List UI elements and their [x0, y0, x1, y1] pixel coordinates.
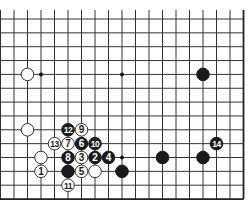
- stone-disc: [21, 124, 34, 137]
- black-stone-move-2: 2: [89, 151, 102, 164]
- black-stone: [197, 151, 210, 164]
- stone-disc: [21, 68, 34, 81]
- black-stone-move-6: 6: [75, 137, 88, 150]
- black-stone: [62, 165, 75, 178]
- white-stone: [35, 151, 48, 164]
- move-number: 6: [79, 138, 85, 149]
- star-point: [120, 72, 124, 76]
- move-number: 5: [79, 166, 85, 177]
- black-stone-move-12: 12: [62, 124, 75, 137]
- stone-disc: [116, 165, 129, 178]
- black-stone: [156, 151, 169, 164]
- black-stone-move-4: 4: [102, 151, 115, 164]
- white-stone: [21, 68, 34, 81]
- move-number: 12: [64, 125, 73, 135]
- move-number: 1: [38, 166, 44, 177]
- white-stone: [89, 165, 102, 178]
- white-stone: [21, 124, 34, 137]
- white-stone-move-3: 3: [75, 151, 88, 164]
- white-stone-move-5: 5: [75, 165, 88, 178]
- stone-disc: [35, 151, 48, 164]
- stone-disc: [197, 151, 210, 164]
- stone-disc: [62, 165, 75, 178]
- star-point: [120, 156, 124, 160]
- black-stone-move-14: 14: [210, 137, 223, 150]
- white-stone-move-1: 1: [35, 165, 48, 178]
- move-number: 3: [79, 152, 85, 163]
- move-number: 4: [106, 152, 112, 163]
- stone-disc: [156, 151, 169, 164]
- move-number: 14: [212, 139, 221, 149]
- move-number: 13: [50, 139, 59, 149]
- black-stone-move-8: 8: [62, 151, 75, 164]
- move-number: 10: [91, 139, 100, 149]
- move-number: 7: [65, 138, 71, 149]
- move-number: 2: [92, 152, 98, 163]
- star-point: [39, 72, 43, 76]
- white-stone-move-13: 13: [48, 137, 61, 150]
- white-stone-move-11: 11: [62, 179, 75, 192]
- white-stone-move-9: 9: [75, 124, 88, 137]
- black-stone: [116, 165, 129, 178]
- move-number: 8: [65, 152, 71, 163]
- stone-disc: [197, 68, 210, 81]
- white-stone-move-7: 7: [62, 137, 75, 150]
- black-stone-move-10: 10: [89, 137, 102, 150]
- stone-disc: [89, 165, 102, 178]
- go-board: 1234567891011121314: [0, 0, 250, 209]
- black-stone: [197, 68, 210, 81]
- move-number: 11: [64, 181, 73, 191]
- move-number: 9: [79, 124, 85, 135]
